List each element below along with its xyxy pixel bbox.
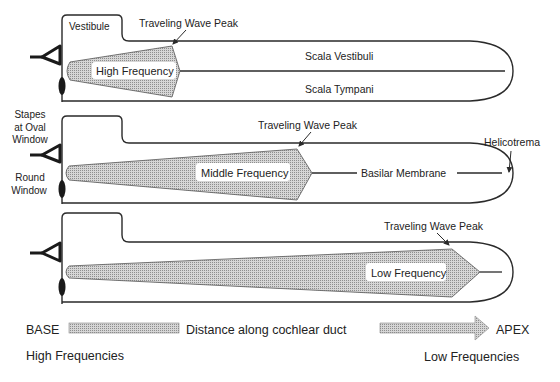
peak-pointer-arrow xyxy=(299,132,311,146)
panel-low-frequency: Low Frequency Traveling Wave Peak xyxy=(30,213,513,304)
stapes-label: Stapes xyxy=(14,109,45,120)
stapes-icon xyxy=(30,145,60,162)
cochlea-diagram: High Frequency Vestibule Traveling Wave … xyxy=(0,0,560,382)
base-label: BASE xyxy=(26,323,59,337)
peak-label: Traveling Wave Peak xyxy=(258,119,358,131)
round-window-label: Round xyxy=(15,172,44,183)
panel-middle-frequency: Middle Frequency Traveling Wave Peak Bas… xyxy=(11,109,540,204)
apex-label: APEX xyxy=(496,323,530,337)
round-window-label-line2: Window xyxy=(11,185,47,196)
scala-vestibuli-label: Scala Vestibuli xyxy=(305,50,373,62)
stapes-icon xyxy=(30,46,60,64)
axis-middle-label: Distance along cochlear duct xyxy=(186,323,347,337)
peak-pointer-arrow xyxy=(437,233,449,245)
peak-pointer-arrow xyxy=(173,30,186,44)
stapes-label-line2: at Oval xyxy=(14,122,46,133)
panel-high-frequency: High Frequency Vestibule Traveling Wave … xyxy=(30,15,513,102)
low-frequencies-label: Low Frequencies xyxy=(424,350,519,364)
high-frequencies-label: High Frequencies xyxy=(26,349,124,363)
distance-axis: BASE Distance along cochlear duct APEX H… xyxy=(26,316,530,364)
scala-tympani-label: Scala Tympani xyxy=(305,83,374,95)
basilar-membrane-label: Basilar Membrane xyxy=(361,167,446,179)
peak-label: Traveling Wave Peak xyxy=(384,220,484,232)
wave-label: High Frequency xyxy=(96,65,174,77)
stapes-label-line3: Window xyxy=(12,134,48,145)
stapes-icon xyxy=(30,243,60,261)
helicotrema-label: Helicotrema xyxy=(484,136,540,148)
axis-bar-left xyxy=(69,323,179,333)
wave-label: Low Frequency xyxy=(371,267,447,279)
vestibule-label: Vestibule xyxy=(69,21,110,32)
round-window-icon xyxy=(59,180,66,198)
peak-label: Traveling Wave Peak xyxy=(139,17,239,29)
wave-label: Middle Frequency xyxy=(201,167,289,179)
round-window-icon xyxy=(59,278,66,296)
round-window-icon xyxy=(59,77,66,95)
axis-arrow-right xyxy=(380,316,489,340)
